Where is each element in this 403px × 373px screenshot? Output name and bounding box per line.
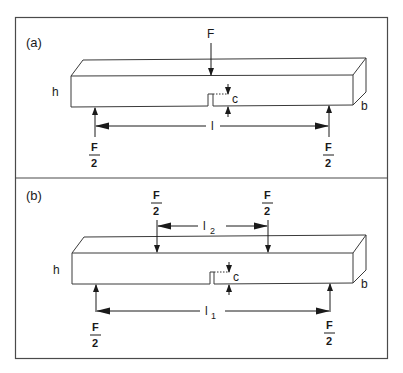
notch-label-b: c	[233, 270, 239, 284]
width-label-a: b	[361, 99, 368, 113]
notch-label-a: c	[232, 92, 238, 106]
outer-span-sub-b: 1	[211, 311, 216, 321]
inner-span-sub-b: 2	[210, 226, 215, 236]
height-label-a: h	[52, 85, 59, 99]
load-label-a: F	[207, 27, 214, 41]
load-left-b: F 2	[151, 189, 162, 252]
inner-span-dimension-b: l 2	[158, 219, 267, 236]
support-right-b: F 2	[324, 284, 335, 347]
inner-span-label-b: l	[203, 219, 206, 233]
support-right-a: F 2	[323, 106, 334, 169]
load-right-b: F 2	[262, 189, 273, 252]
support-right-a-den: 2	[325, 157, 331, 169]
support-left-a: F 2	[89, 108, 100, 169]
outer-span-dimension-b: l 1	[97, 304, 329, 321]
support-left-a-num: F	[91, 141, 98, 153]
span-label-a: l	[211, 119, 214, 133]
height-label-b: h	[53, 263, 60, 277]
panel-b: (b) F 2 F 2	[26, 188, 368, 349]
load-right-b-num: F	[264, 189, 271, 201]
notch-depth-b: c	[214, 262, 239, 295]
notch-a	[208, 94, 213, 106]
load-left-b-den: 2	[153, 205, 159, 217]
figure-frame	[16, 18, 388, 359]
panel-a: (a) F c h	[26, 27, 368, 169]
support-right-a-num: F	[325, 141, 332, 153]
outer-span-label-b: l	[205, 304, 208, 318]
support-left-b-num: F	[92, 321, 99, 333]
notch-b	[210, 272, 214, 284]
notch-depth-a: c	[213, 84, 238, 117]
beam-a	[71, 58, 366, 107]
width-label-b: b	[361, 277, 368, 291]
support-left-b: F 2	[90, 285, 101, 349]
support-left-a-den: 2	[91, 157, 97, 169]
beam-b	[72, 235, 366, 284]
support-right-b-num: F	[326, 319, 333, 331]
support-right-b-den: 2	[326, 335, 332, 347]
load-right-b-den: 2	[264, 205, 270, 217]
load-arrow-a: F	[207, 27, 214, 75]
panel-a-label: (a)	[26, 35, 42, 50]
span-dimension-a: l	[96, 119, 328, 133]
load-left-b-num: F	[153, 189, 160, 201]
panel-b-label: (b)	[26, 188, 42, 203]
bending-test-diagram: (a) F c h	[0, 0, 403, 373]
support-left-b-den: 2	[92, 337, 98, 349]
